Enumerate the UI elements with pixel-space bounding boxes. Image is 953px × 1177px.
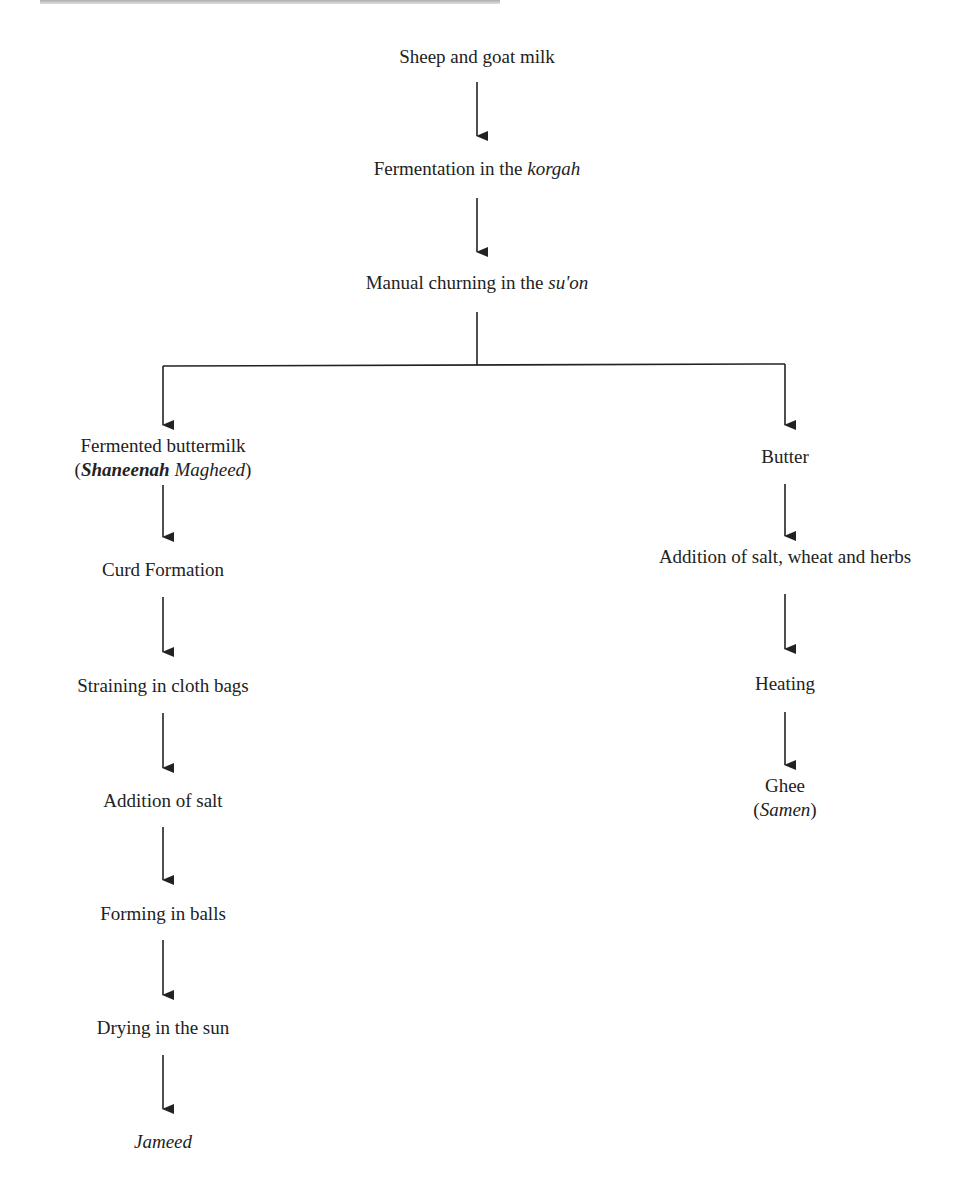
node-label: Ghee <box>753 774 816 798</box>
node-label-italic: Jameed <box>134 1131 192 1152</box>
node-label-italic: su'on <box>548 272 588 293</box>
term-italic: Magheed <box>170 459 245 480</box>
node-straining: Straining in cloth bags <box>77 674 249 698</box>
node-heating: Heating <box>755 672 815 696</box>
node-label: Addition of salt, wheat and herbs <box>659 546 911 567</box>
node-forming-balls: Forming in balls <box>100 902 226 926</box>
node-label: Fermentation in the <box>374 158 528 179</box>
paren: ) <box>810 799 816 820</box>
node-label: Fermented buttermilk <box>75 434 252 458</box>
node-curd-formation: Curd Formation <box>102 558 224 582</box>
node-label: Manual churning in the <box>366 272 549 293</box>
node-fermented-buttermilk: Fermented buttermilk (Shaneenah Magheed) <box>75 434 252 482</box>
node-butter: Butter <box>761 445 809 469</box>
node-addition-salt-wheat-herbs: Addition of salt, wheat and herbs <box>640 545 930 569</box>
branch-bar <box>163 364 785 366</box>
term-bold-italic: Shaneenah <box>81 459 170 480</box>
paren: ) <box>245 459 251 480</box>
node-label: Straining in cloth bags <box>77 675 249 696</box>
node-fermentation: Fermentation in the korgah <box>374 157 581 181</box>
node-label-italic: korgah <box>527 158 580 179</box>
node-label: Addition of salt <box>103 790 222 811</box>
node-label: Heating <box>755 673 815 694</box>
node-sublabel: (Shaneenah Magheed) <box>75 458 252 482</box>
node-manual-churning: Manual churning in the su'on <box>366 271 589 295</box>
node-label: Curd Formation <box>102 559 224 580</box>
node-label: Butter <box>761 446 809 467</box>
node-addition-of-salt: Addition of salt <box>103 789 222 813</box>
node-sublabel: (Samen) <box>753 798 816 822</box>
node-ghee: Ghee (Samen) <box>753 774 816 822</box>
node-sheep-goat-milk: Sheep and goat milk <box>399 45 555 69</box>
node-drying-sun: Drying in the sun <box>97 1016 229 1040</box>
node-label: Drying in the sun <box>97 1017 229 1038</box>
node-label: Forming in balls <box>100 903 226 924</box>
term-italic: Samen <box>760 799 811 820</box>
node-jameed: Jameed <box>134 1130 192 1154</box>
node-label: Sheep and goat milk <box>399 46 555 67</box>
